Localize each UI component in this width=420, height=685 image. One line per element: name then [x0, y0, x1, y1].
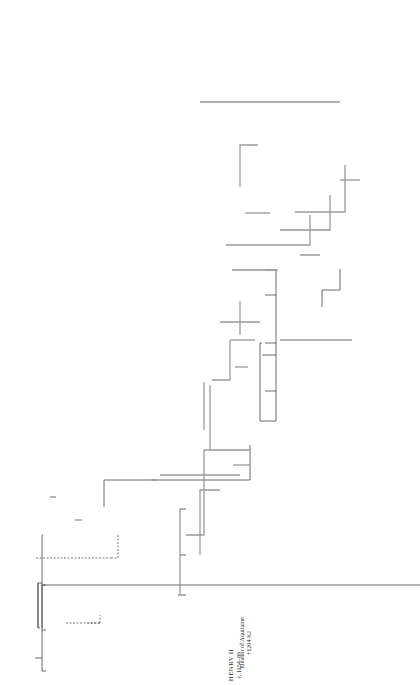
connector-lines: [0, 0, 420, 685]
person-eleanor-aquitaine: Eleanor of Aquitaine †1204 KJ: [238, 617, 252, 669]
name: HENRY II: [228, 649, 235, 681]
detail: †1204 KJ: [245, 617, 252, 669]
name: Eleanor of Aquitaine: [238, 617, 245, 669]
genealogy-chart: HENRY II r. 1154–89 Eleanor of Aquitaine…: [0, 0, 420, 685]
